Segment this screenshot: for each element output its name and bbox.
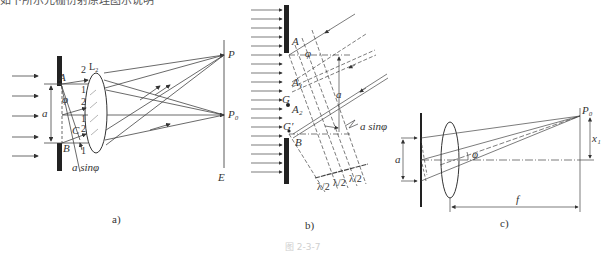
label-c-focal-f: f	[516, 193, 521, 205]
label-c-width-a: a	[395, 153, 401, 165]
label-b-edge-b: B	[295, 136, 302, 148]
label-b-edge-a: A	[291, 35, 299, 47]
panel-b	[251, 5, 388, 192]
caption-c: c)	[500, 217, 509, 230]
label-ray-2a: 2	[81, 64, 86, 75]
label-path-diff: a sinφ	[72, 161, 99, 173]
label-angle-phi: φ	[62, 93, 68, 105]
label-point-c: C	[72, 124, 80, 136]
label-b-width-a: a	[336, 88, 342, 100]
label-b-half-wave-1: λ/2	[317, 181, 330, 192]
label-c-angle: φ	[472, 148, 478, 160]
label-b-a1: A₁	[291, 76, 303, 88]
label-b-angle: φ	[305, 47, 311, 59]
label-b-half-wave-3: λ/2	[349, 173, 362, 184]
label-screen-e: E	[217, 171, 225, 183]
label-c-offset-x1: x₁	[591, 132, 601, 144]
label-point-p0: P₀	[227, 108, 239, 120]
panel-c	[401, 108, 594, 212]
caption-a: a)	[112, 213, 121, 226]
label-b-g: G	[282, 93, 290, 105]
label-edge-b: B	[63, 142, 70, 154]
panel-b-labels: A φ A₁ G A₂ G′ B a a sinφ λ/2 λ/2 λ/2 b)…	[282, 35, 387, 252]
label-b-half-wave-2: λ/2	[333, 177, 346, 188]
label-b-path-diff: a sinφ	[360, 120, 387, 132]
label-ray-2b: 2	[81, 96, 86, 107]
label-ray-1a: 1	[81, 84, 86, 95]
label-ray-2c: 2	[81, 123, 86, 134]
caption-b: b)	[305, 219, 315, 232]
label-point-p: P	[227, 48, 235, 60]
label-b-a2: A₂	[291, 103, 303, 115]
panel-a-labels: A B C a φ a sinφ L₂ P P₀ E 2 1 2 1 2 1 a…	[42, 48, 239, 226]
label-lens: L₂	[89, 61, 99, 72]
label-ray-1c: 1	[81, 145, 86, 156]
figure-caption: 图 2-3-7	[285, 242, 321, 252]
label-c-point-p0: P₀	[581, 104, 593, 116]
panel-a	[12, 40, 224, 172]
diffraction-diagram: A B C a φ a sinφ L₂ P P₀ E 2 1 2 1 2 1 a…	[0, 0, 602, 254]
label-width-a: a	[42, 107, 48, 119]
label-edge-a: A	[58, 71, 66, 83]
label-b-g-prime: G′	[283, 120, 294, 132]
